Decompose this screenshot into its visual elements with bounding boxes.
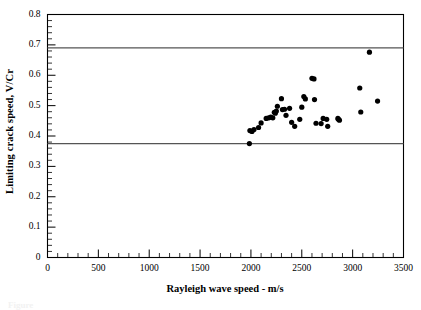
y-tick-label: 0 bbox=[15, 253, 41, 263]
data-point bbox=[325, 124, 330, 129]
data-point bbox=[297, 117, 302, 122]
y-tick-label: 0.6 bbox=[15, 70, 41, 80]
x-tick-label: 3000 bbox=[333, 264, 373, 274]
data-point bbox=[251, 127, 256, 132]
data-point bbox=[274, 108, 279, 113]
data-point bbox=[312, 97, 317, 102]
data-point bbox=[247, 141, 252, 146]
data-point bbox=[299, 105, 304, 110]
x-tick-label: 2000 bbox=[231, 264, 271, 274]
data-point bbox=[311, 76, 316, 81]
plot-frame bbox=[48, 15, 404, 258]
x-tick-label: 1500 bbox=[180, 264, 220, 274]
y-tick-label: 0.7 bbox=[15, 40, 41, 50]
data-point bbox=[357, 85, 362, 90]
y-tick-label: 0.4 bbox=[15, 131, 41, 141]
data-point bbox=[275, 104, 280, 109]
x-tick-label: 0 bbox=[28, 264, 68, 274]
reference-lines bbox=[48, 48, 404, 144]
y-tick-label: 0.1 bbox=[15, 222, 41, 232]
data-point bbox=[324, 117, 329, 122]
data-points bbox=[247, 50, 380, 147]
data-point bbox=[256, 125, 261, 130]
y-tick-label: 0.8 bbox=[15, 10, 41, 20]
data-point bbox=[279, 96, 284, 101]
data-point bbox=[287, 106, 292, 111]
data-point bbox=[358, 109, 363, 114]
data-point bbox=[283, 113, 288, 118]
data-point bbox=[303, 96, 308, 101]
data-point bbox=[313, 121, 318, 126]
y-tick-label: 0.3 bbox=[15, 161, 41, 171]
data-point bbox=[282, 107, 287, 112]
x-tick-label: 500 bbox=[78, 264, 118, 274]
x-tick-label: 1000 bbox=[129, 264, 169, 274]
figure-container: Limiting crack speed, V/Cr Rayleigh wave… bbox=[0, 0, 421, 310]
data-point bbox=[292, 124, 297, 129]
data-point bbox=[337, 118, 342, 123]
data-point bbox=[259, 120, 264, 125]
data-point bbox=[270, 115, 275, 120]
data-point bbox=[319, 121, 324, 126]
y-tick-label: 0.5 bbox=[15, 101, 41, 111]
y-tick-label: 0.2 bbox=[15, 192, 41, 202]
data-point bbox=[375, 98, 380, 103]
axis-ticks bbox=[48, 15, 404, 258]
data-point bbox=[367, 50, 372, 55]
x-tick-label: 2500 bbox=[282, 264, 322, 274]
x-tick-label: 3500 bbox=[384, 264, 421, 274]
